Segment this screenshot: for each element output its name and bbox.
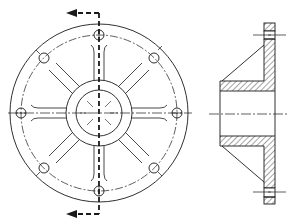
flange-top-block [264,23,275,31]
top-section-hatched [220,39,275,91]
bolt-hole-gap-bottom [264,188,275,197]
cone-edge-bottom [222,146,264,182]
flange-bottom-block [264,197,275,204]
rib-top-right [119,63,149,93]
front-view [8,24,192,202]
side-section-view [209,23,287,204]
cone-edge-top [222,45,264,81]
bottom-section-hatched [220,136,275,188]
arrowhead-top-icon [66,9,77,17]
bolt-hole [149,53,159,63]
rib-bottom-left [49,133,79,163]
technical-drawing [0,0,291,223]
arrowhead-bottom-icon [66,210,77,218]
